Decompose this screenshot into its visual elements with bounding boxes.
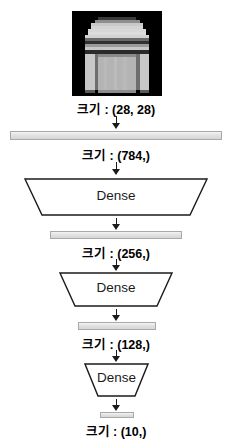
tensor-bar-128 <box>78 322 156 330</box>
flow-arrow-7 <box>110 399 123 411</box>
tensor-bar-10 <box>100 412 134 418</box>
arrow-head-icon <box>112 123 120 129</box>
tensor-bar-784 <box>10 131 222 140</box>
flow-arrow-2 <box>110 162 123 175</box>
fashion-mnist-pullover-icon <box>72 11 162 96</box>
arrow-head-icon <box>112 224 120 230</box>
arrow-head-icon <box>112 356 120 362</box>
dense-layer-2: Dense <box>59 272 173 307</box>
arrow-head-icon <box>112 265 120 271</box>
flow-arrow-4 <box>110 259 123 271</box>
dense-layer-2-label: Dense <box>59 280 173 295</box>
arrow-head-icon <box>112 315 120 321</box>
dense-layer-1: Dense <box>24 178 208 216</box>
flow-arrow-6 <box>110 350 123 362</box>
flow-arrow-3 <box>110 218 123 230</box>
dense-layer-3: Dense <box>84 363 149 397</box>
shape-caption-output: 크기 : (10,) <box>0 421 232 440</box>
input-image-thumbnail <box>72 11 162 96</box>
arrow-head-icon <box>112 169 120 175</box>
dense-layer-1-label: Dense <box>24 188 208 203</box>
tensor-bar-256 <box>50 231 182 239</box>
arrow-head-icon <box>112 405 120 411</box>
dense-layer-3-label: Dense <box>84 370 149 385</box>
flow-arrow-1 <box>110 116 123 129</box>
flow-arrow-5 <box>110 309 123 321</box>
